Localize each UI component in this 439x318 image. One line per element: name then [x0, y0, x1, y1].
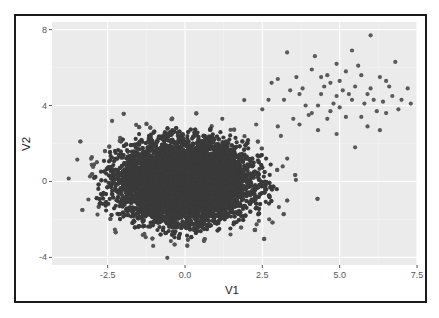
x-tick-label: 2.5 — [256, 270, 269, 280]
scatter-plot: -2.50.02.55.07.5 -4048 V1 V2 — [16, 16, 425, 301]
x-axis-ticks: -2.50.02.55.07.5 — [100, 265, 423, 280]
y-tick-label: 8 — [42, 25, 47, 35]
x-axis-title: V1 — [225, 284, 239, 296]
x-tick-label: 0.0 — [179, 270, 192, 280]
y-axis-ticks: -4048 — [39, 25, 52, 263]
x-tick-label: 5.0 — [333, 270, 346, 280]
chart-frame: -2.50.02.55.07.5 -4048 V1 V2 — [14, 14, 427, 303]
y-axis-title: V2 — [20, 137, 32, 151]
y-tick-label: 4 — [42, 101, 47, 111]
y-tick-label: 0 — [42, 176, 47, 186]
y-tick-label: -4 — [39, 252, 47, 262]
x-tick-label: 7.5 — [411, 270, 424, 280]
x-tick-label: -2.5 — [100, 270, 116, 280]
